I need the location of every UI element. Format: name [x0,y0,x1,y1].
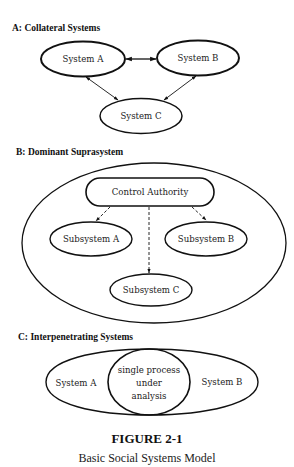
section-a-title: A: Collateral Systems [12,23,100,33]
node-system-b-label: System B [178,53,219,63]
node-subsystem-b-label: Subsystem B [178,234,234,244]
edge-authority-subsystem-b [192,207,206,220]
label-system-b: System B [202,377,243,387]
node-system-a-label: System A [63,54,105,64]
section-c-interpenetrating: System A System B single process under a… [46,349,258,415]
center-label-line-1: single process [118,365,180,375]
node-control-authority-label: Control Authority [112,187,189,197]
section-b-title: B: Dominant Suprasystem [16,147,123,157]
section-c-title: C: Interpenetrating Systems [18,332,133,342]
figure-diagram: A: Collateral Systems System A System B … [0,0,294,467]
figure-caption: Basic Social Systems Model [79,451,217,465]
center-label-line-3: analysis [132,391,167,401]
section-a-collateral: System A System B System C [41,41,239,134]
center-label-line-2: under [136,378,163,388]
edge-b-c [164,76,196,100]
figure-number: FIGURE 2-1 [111,431,182,446]
node-subsystem-c-label: Subsystem C [123,285,180,295]
node-system-c-label: System C [120,111,162,121]
edge-a-c [86,77,118,100]
section-b-suprasystem: Control Authority Subsystem A Subsystem … [22,163,286,323]
label-system-a: System A [56,378,98,388]
node-subsystem-a-label: Subsystem A [63,234,120,244]
edge-authority-subsystem-a [96,207,110,221]
